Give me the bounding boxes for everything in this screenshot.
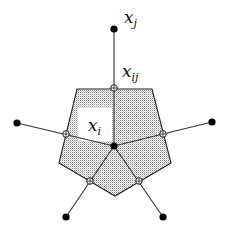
voronoi-cell [59, 89, 171, 196]
node-n_bottom_left [62, 213, 69, 220]
node-center-xi [110, 142, 117, 149]
node-n_right [208, 118, 215, 125]
label-xj: xj [124, 7, 138, 30]
voronoi-diagram: xj xij xi [0, 0, 228, 231]
node-n_bottom_right [159, 213, 166, 220]
label-xij: xij [122, 61, 139, 84]
node-n_left [13, 119, 20, 126]
diagram-canvas: xj xij xi [0, 0, 228, 231]
node-x_j [110, 25, 117, 32]
